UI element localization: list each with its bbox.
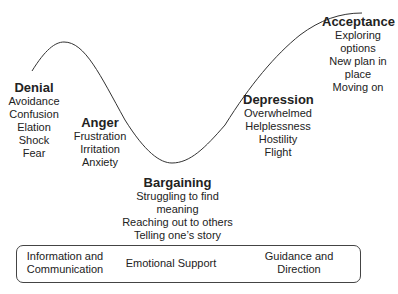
support-line: Information and bbox=[23, 250, 107, 263]
support-guidance: Guidance and Direction bbox=[259, 250, 339, 276]
stage-item: Hostility bbox=[243, 133, 313, 146]
stage-item: options bbox=[322, 42, 394, 55]
stage-item: Avoidance bbox=[2, 95, 66, 108]
stage-bargaining: Bargaining Struggling to find meaning Re… bbox=[120, 175, 235, 242]
stage-item: Moving on bbox=[322, 81, 394, 94]
stage-item: Anxiety bbox=[70, 156, 130, 169]
stage-item: Shock bbox=[2, 134, 66, 147]
stage-title: Acceptance bbox=[322, 14, 394, 29]
support-information: Information and Communication bbox=[23, 250, 107, 276]
stage-depression: Depression Overwhelmed Helplessness Host… bbox=[243, 92, 313, 159]
support-line: Guidance and bbox=[259, 250, 339, 263]
stage-anger: Anger Frustration Irritation Anxiety bbox=[70, 115, 130, 169]
stage-item: Flight bbox=[243, 146, 313, 159]
stage-item: New plan in bbox=[322, 55, 394, 68]
stage-title: Anger bbox=[70, 115, 130, 130]
stage-item: Overwhelmed bbox=[243, 107, 313, 120]
stage-item: Frustration bbox=[70, 130, 130, 143]
stage-item: Irritation bbox=[70, 143, 130, 156]
stage-acceptance: Acceptance Exploring options New plan in… bbox=[322, 14, 394, 94]
stage-item: Reaching out to others bbox=[120, 216, 235, 229]
stage-denial: Denial Avoidance Confusion Elation Shock… bbox=[2, 80, 66, 160]
stage-item: Elation bbox=[2, 121, 66, 134]
stage-title: Depression bbox=[243, 92, 313, 107]
support-emotional: Emotional Support bbox=[121, 257, 221, 270]
stage-title: Bargaining bbox=[120, 175, 235, 190]
stage-item: place bbox=[322, 68, 394, 81]
stage-item: Helplessness bbox=[243, 120, 313, 133]
stage-item: Exploring bbox=[322, 29, 394, 42]
stage-item: Telling one’s story bbox=[120, 229, 235, 242]
support-line: Emotional Support bbox=[121, 257, 221, 270]
support-line: Communication bbox=[23, 263, 107, 276]
support-line: Direction bbox=[259, 263, 339, 276]
stage-item: meaning bbox=[120, 203, 235, 216]
stage-item: Confusion bbox=[2, 108, 66, 121]
support-box: Information and Communication Emotional … bbox=[16, 245, 361, 283]
stage-item: Fear bbox=[2, 147, 66, 160]
stage-title: Denial bbox=[2, 80, 66, 95]
stage-item: Struggling to find bbox=[120, 190, 235, 203]
